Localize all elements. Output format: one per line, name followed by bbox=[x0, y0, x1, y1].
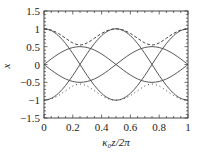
curve-dashed-upper bbox=[44, 29, 188, 45]
x-tick-label: 0.6 bbox=[124, 121, 138, 133]
y-tick-labels: 1.510.50−0.5−1−1.5 bbox=[20, 5, 40, 124]
chart: 00.20.40.60.81 1.510.50−0.5−1−1.5 κ₀z/2π… bbox=[0, 0, 199, 152]
x-tick-label: 0 bbox=[41, 121, 47, 133]
y-tick-label: 0.5 bbox=[26, 41, 40, 53]
x-tick-label: 0.4 bbox=[95, 121, 109, 133]
x-tick-label: 1 bbox=[185, 121, 191, 133]
plot-curves bbox=[44, 29, 188, 100]
y-tick-label: −1.5 bbox=[20, 112, 40, 124]
curve-dotted-lower bbox=[44, 84, 188, 100]
y-tick-label: −0.5 bbox=[20, 76, 40, 88]
x-axis-label: κ₀z/2π bbox=[102, 136, 130, 148]
y-tick-label: 1 bbox=[35, 23, 41, 35]
y-axis-label: x bbox=[0, 63, 12, 69]
x-tick-label: 0.8 bbox=[152, 121, 166, 133]
x-tick-labels: 00.20.40.60.81 bbox=[41, 121, 191, 133]
x-tick-label: 0.2 bbox=[66, 121, 80, 133]
curve-solid-4 bbox=[44, 47, 188, 83]
y-tick-label: 0 bbox=[35, 59, 41, 71]
y-tick-label: 1.5 bbox=[26, 5, 40, 17]
y-tick-label: −1 bbox=[28, 94, 40, 106]
